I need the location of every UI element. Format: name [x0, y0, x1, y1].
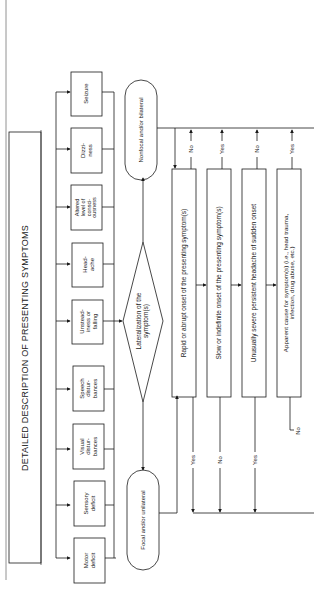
- answer-q3-right: No: [252, 141, 262, 157]
- symptom-speech-disturbances: Speech distur- bances: [73, 366, 104, 411]
- question-rapid-onset: Rapid or abrupt onset of the presenting …: [172, 169, 196, 397]
- answer-q3-left: Yes: [250, 452, 260, 468]
- symptom-sensory-deficit: Sensory deficit: [74, 481, 105, 526]
- answer-q1-right: No: [186, 141, 196, 157]
- decision-lateralization: Lateralization of the symptom(s): [129, 281, 157, 361]
- symptom-motor-deficit: Motor deficit: [74, 538, 105, 583]
- symptom-seizure: Seizure: [71, 72, 102, 116]
- question-apparent-cause: Apparent cause for symptom(s) (i.e., hea…: [277, 169, 301, 397]
- symptom-altered-consciousness: Altered level of consci- ousness: [71, 185, 102, 230]
- answer-q2-left: No: [215, 452, 225, 468]
- outcome-nonfocal-bilateral: Nonfocal and/or bilateral: [125, 80, 157, 180]
- symptom-headache: Head- ache: [73, 243, 104, 287]
- answer-q2-right: Yes: [217, 141, 227, 157]
- answer-q4-left: No: [294, 424, 302, 438]
- question-slow-onset: Slow or indefinite onset of the presenti…: [207, 169, 231, 397]
- answer-q1-left: Yes: [188, 452, 198, 468]
- outcome-focal-unilateral: Focal and/or unilateral: [127, 470, 159, 570]
- answer-q4-right: Yes: [287, 141, 297, 157]
- question-severe-headache: Unusually severe persistent headache of …: [242, 169, 266, 397]
- title-banner: DETAILED DESCRIPTION OF PRESENTING SYMPT…: [10, 133, 42, 564]
- symptom-dizziness: Dizzi- ness: [71, 128, 102, 173]
- symptom-unsteadiness: Unstead- iness or falling: [73, 300, 104, 344]
- symptom-visual-disturbances: Visual distur- bances: [73, 424, 104, 469]
